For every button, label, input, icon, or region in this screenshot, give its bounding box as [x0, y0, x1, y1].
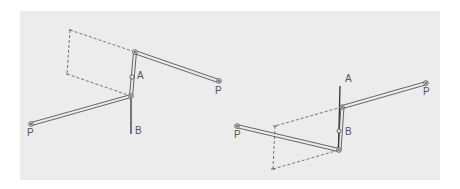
left-figure	[29, 30, 222, 134]
label-A-right: A	[345, 74, 352, 84]
label-P-right-right: P	[423, 87, 430, 97]
label-P-right-left: P	[215, 86, 222, 96]
pivot-B	[337, 129, 341, 133]
rod-upper-right	[342, 82, 427, 109]
label-B-right: B	[345, 127, 352, 137]
label-P-left-right: P	[234, 130, 241, 140]
axis-line	[339, 86, 341, 148]
label-P-left-left: P	[27, 128, 34, 138]
label-A-left: A	[137, 71, 144, 81]
pivot-A	[130, 75, 134, 79]
linkage-diagram	[0, 0, 460, 189]
rod-lower-left	[236, 125, 339, 152]
rod-lower-left	[31, 95, 131, 126]
dashed-parallelogram	[67, 30, 135, 96]
right-figure	[235, 81, 429, 169]
label-B-left: B	[135, 126, 142, 136]
rod-upper-right	[134, 51, 219, 83]
dashed-parallelogram	[273, 107, 342, 169]
link-vertical	[130, 52, 137, 96]
